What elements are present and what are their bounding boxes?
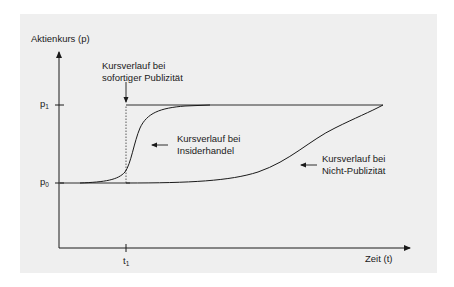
annotation-line: Kursverlauf bei xyxy=(177,133,240,145)
annotation-sofortige-publizitaet: Kursverlauf bei sofortiger Publizität xyxy=(102,60,183,83)
annotation-line: Kursverlauf bei xyxy=(322,153,385,165)
annotation-line: Insiderhandel xyxy=(177,145,240,157)
p1-label: p1 xyxy=(40,98,49,113)
t1-subscript: 1 xyxy=(126,260,130,267)
p0-subscript: 0 xyxy=(45,181,49,188)
annotation-insiderhandel: Kursverlauf bei Insiderhandel xyxy=(177,133,240,156)
x-axis-label: Zeit (t) xyxy=(365,253,392,265)
p1-subscript: 1 xyxy=(45,103,49,110)
annotation-line: sofortiger Publizität xyxy=(102,72,183,84)
p0-label: p0 xyxy=(40,176,49,191)
t1-label: t1 xyxy=(123,255,129,270)
annotation-line: Nicht-Publizität xyxy=(322,165,385,177)
annotation-line: Kursverlauf bei xyxy=(102,60,183,72)
annotation-nicht-publizitaet: Kursverlauf bei Nicht-Publizität xyxy=(322,153,385,176)
y-axis-label: Aktienkurs (p) xyxy=(31,33,90,45)
